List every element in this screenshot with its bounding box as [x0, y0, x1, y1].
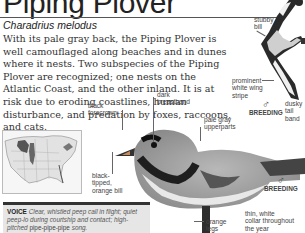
scientific-name: Charadrius melodus — [3, 19, 97, 31]
plumage-label: BREEDING — [249, 109, 283, 116]
plumage-label: BREEDING — [264, 185, 298, 192]
label-white-collar: thin, white collar throughout the year — [245, 210, 294, 232]
voice-song: pipe-pipe-pipe — [29, 224, 70, 231]
leader-line-breastband — [153, 97, 154, 142]
leader-line-bill — [112, 152, 113, 174]
leader-line-wing-stripe — [262, 80, 274, 81]
male-symbol-icon: ♂ — [264, 175, 298, 185]
leader-line-upperparts — [200, 127, 201, 141]
label-white-wing-stripe: prominent white wing stripe — [232, 77, 263, 99]
plumage-tag-flying: ♂ BREEDING — [249, 99, 283, 116]
label-bill: black- tipped, orange bill — [92, 172, 122, 194]
plumage-tag-standing: ♂ BREEDING — [264, 175, 298, 192]
range-map — [2, 130, 82, 194]
label-pale-gray-upperparts: pale gray upperparts — [204, 116, 236, 131]
title-rule — [0, 17, 280, 18]
voice-heading: VOICE — [7, 208, 27, 215]
voice-song-suffix: song. — [72, 224, 88, 231]
male-symbol-icon: ♂ — [249, 99, 283, 109]
label-dark-breastband: dark breastband — [157, 91, 190, 106]
label-stubby-bill: stubby bill — [254, 16, 273, 31]
label-black-forecrown: black forecrown — [88, 102, 117, 117]
voice-box: VOICE Clear, whistled peep call in fligh… — [3, 202, 150, 233]
label-orange-legs: orange legs — [206, 218, 227, 233]
leader-line-legs — [194, 221, 204, 222]
leader-line-forecrown — [122, 110, 123, 130]
